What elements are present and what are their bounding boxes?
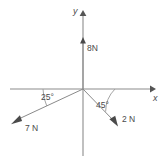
vector-8n (80, 37, 86, 89)
x-axis-label: x (152, 93, 158, 103)
diagram-canvas: y x 8N (0, 0, 164, 160)
force-7n-label: 7 N (25, 123, 38, 133)
vector-7n-arrowhead (11, 115, 22, 124)
force-2n-label: 2 N (122, 114, 135, 124)
angle-45-label: 45° (96, 100, 109, 110)
vectors-group (11, 37, 118, 127)
y-axis-arrowhead (80, 10, 87, 16)
x-axis-arrowhead (150, 86, 156, 93)
angle-25-label: 25° (41, 92, 54, 102)
force-8n-label: 8N (87, 43, 98, 53)
force-diagram: y x 8N (0, 0, 164, 160)
vector-8n-arrowhead (80, 37, 86, 44)
y-axis-label: y (72, 6, 78, 16)
